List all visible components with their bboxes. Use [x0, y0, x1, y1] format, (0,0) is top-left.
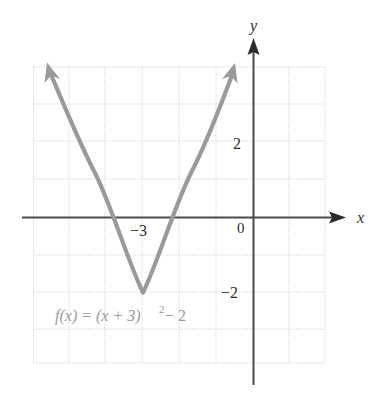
axes [22, 38, 346, 385]
function-equation-prefix: f(x) = (x + 3) [55, 307, 141, 325]
parabola-curve-group [45, 63, 238, 293]
y-tick-label-2: 2 [233, 135, 241, 152]
y-tick-label-neg2: −2 [221, 284, 238, 301]
graph-canvas: y x 0 −3 2 −2 f(x) = (x + 3) 2 − 2 [0, 0, 390, 395]
y-axis-label: y [248, 17, 258, 35]
function-equation-exponent: 2 [159, 303, 165, 315]
function-equation-suffix: − 2 [165, 307, 186, 324]
x-tick-label-neg3: −3 [130, 222, 147, 239]
x-axis-label: x [356, 209, 364, 226]
origin-label: 0 [237, 220, 245, 236]
parabola-curve [51, 74, 233, 293]
function-equation-label: f(x) = (x + 3) 2 − 2 [55, 303, 186, 325]
parabola-figure: y x 0 −3 2 −2 f(x) = (x + 3) 2 − 2 [0, 0, 390, 395]
